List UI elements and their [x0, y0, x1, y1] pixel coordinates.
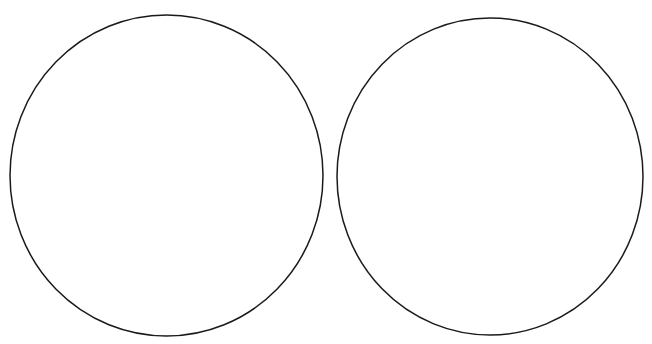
diagram-canvas: [0, 0, 652, 344]
right-circle: [337, 18, 643, 335]
left-circle: [10, 15, 323, 336]
